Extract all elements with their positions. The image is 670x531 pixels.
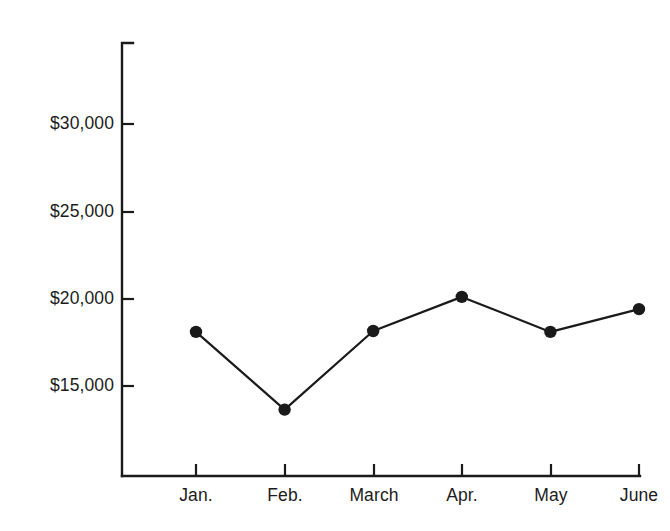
- x-tick-label-june: June: [589, 487, 670, 505]
- data-point-march: [367, 325, 379, 337]
- y-tick-label-25000: $25,000: [14, 203, 114, 221]
- data-point-may: [544, 326, 556, 338]
- series-line-revenue: [196, 297, 639, 410]
- x-tick-label-apr: Apr.: [412, 487, 512, 505]
- x-tick-label-jan: Jan.: [146, 487, 246, 505]
- x-tick-label-march: March: [324, 487, 424, 505]
- x-axis-ticks: [196, 464, 639, 476]
- y-axis-ticks: [122, 124, 134, 386]
- series-markers: [190, 291, 645, 416]
- data-point-june: [633, 303, 645, 315]
- y-tick-label-20000: $20,000: [14, 290, 114, 308]
- chart-plot-area: [0, 0, 670, 531]
- data-point-apr: [456, 291, 468, 303]
- line-chart: $30,000 $25,000 $20,000 $15,000 Jan. Feb…: [0, 0, 670, 531]
- x-tick-label-feb: Feb.: [235, 487, 335, 505]
- data-point-jan: [190, 326, 202, 338]
- y-tick-label-15000: $15,000: [14, 377, 114, 395]
- y-axis-line: [122, 43, 133, 476]
- y-tick-label-30000: $30,000: [14, 115, 114, 133]
- x-tick-label-may: May: [501, 487, 601, 505]
- data-point-feb: [278, 403, 290, 415]
